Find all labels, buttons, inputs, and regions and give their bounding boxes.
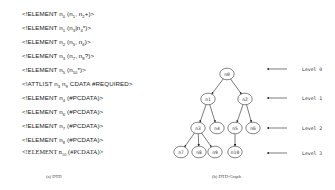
node-n3: n3 — [191, 122, 205, 134]
node-n7: n7 — [174, 146, 188, 158]
edge-n2-n5 — [237, 105, 243, 123]
node-n1: n1 — [201, 93, 215, 105]
edge-n0-n1 — [212, 79, 223, 94]
edge-n1-n4 — [210, 105, 216, 123]
node-n0: n0 — [220, 68, 234, 80]
node-n9: n9 — [208, 146, 222, 158]
level-indicator: Level 2 — [267, 126, 322, 131]
node-n10: n10 — [228, 146, 242, 158]
svg-text:n2: n2 — [242, 97, 248, 102]
level-label: Level 2 — [302, 126, 322, 131]
svg-text:n6: n6 — [250, 126, 256, 131]
edge-n0-n2 — [231, 79, 242, 94]
graph-edges — [185, 79, 252, 147]
edge-n1-n3 — [200, 105, 206, 123]
node-n2: n2 — [238, 93, 252, 105]
level-indicators: Level 0Level 1Level 2Level 3 — [267, 67, 322, 156]
level-label: Level 3 — [302, 151, 322, 156]
node-n8: n8 — [192, 146, 206, 158]
node-n4: n4 — [210, 122, 224, 134]
svg-text:n0: n0 — [224, 72, 230, 77]
svg-text:n1: n1 — [205, 97, 211, 102]
edge-n3-n8 — [198, 134, 199, 146]
node-n6: n6 — [246, 122, 260, 134]
level-indicator: Level 1 — [267, 96, 322, 101]
edge-n3-n9 — [202, 133, 212, 147]
svg-text:n7: n7 — [178, 150, 184, 155]
level-label: Level 0 — [302, 67, 322, 72]
svg-text:n9: n9 — [212, 150, 218, 155]
level-indicator: Level 3 — [267, 151, 322, 156]
edge-n2-n6 — [247, 105, 252, 123]
svg-text:n8: n8 — [196, 150, 202, 155]
dtd-graph: n0n1n2n3n4n5n6n7n8n9n10 Level 0Level 1Le… — [0, 0, 335, 190]
svg-text:n10: n10 — [231, 150, 240, 155]
svg-text:n5: n5 — [232, 126, 238, 131]
level-label: Level 1 — [302, 96, 322, 101]
level-indicator: Level 0 — [267, 67, 322, 72]
svg-text:n4: n4 — [214, 126, 220, 131]
node-n5: n5 — [228, 122, 242, 134]
svg-text:n3: n3 — [195, 126, 201, 131]
edge-n3-n7 — [185, 133, 195, 147]
graph-caption: (b) DTD-Graph — [212, 174, 241, 179]
